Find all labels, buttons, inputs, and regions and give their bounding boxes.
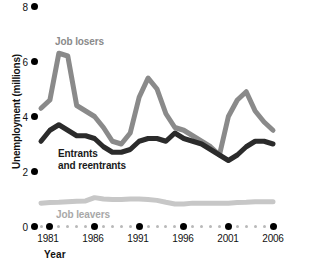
plot-area <box>0 0 313 271</box>
unemployment-line-chart: Unemployment (millions) Year 8 6 4 2 0 1… <box>0 0 313 271</box>
line-job-leavers <box>41 198 273 204</box>
line-entrants-and-reentrants <box>41 125 273 161</box>
